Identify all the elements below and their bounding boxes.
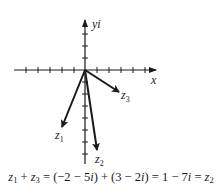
vector-z3-arrow <box>85 70 119 92</box>
caption-text: ) = 1 − 7 <box>145 170 188 184</box>
caption-operator: + <box>17 170 30 184</box>
equation-caption: z1 + z3 = (−2 − 5i) + (3 − 2i) = 1 − 7i … <box>0 170 222 185</box>
vector-z2-arrow <box>85 70 97 150</box>
vector-z2-label: z2 <box>94 152 104 168</box>
caption-text: ) + (3 − 2 <box>94 170 141 184</box>
caption-subscript: 2 <box>209 175 213 185</box>
vector-z3-label: z3 <box>120 88 130 104</box>
caption-text: = (−2 − 5 <box>40 170 90 184</box>
x-axis-label: x <box>150 73 157 87</box>
y-axis-label: yi <box>91 17 101 31</box>
caption-operator: = <box>191 170 204 184</box>
complex-plane-figure: yi x z1 z2 z3 z1 + z3 = (−2 − 5i) + (3 −… <box>0 0 222 193</box>
complex-plane: yi x z1 z2 z3 <box>0 0 222 170</box>
vector-z1-arrow <box>62 70 85 127</box>
vector-z1-label: z1 <box>54 128 64 144</box>
